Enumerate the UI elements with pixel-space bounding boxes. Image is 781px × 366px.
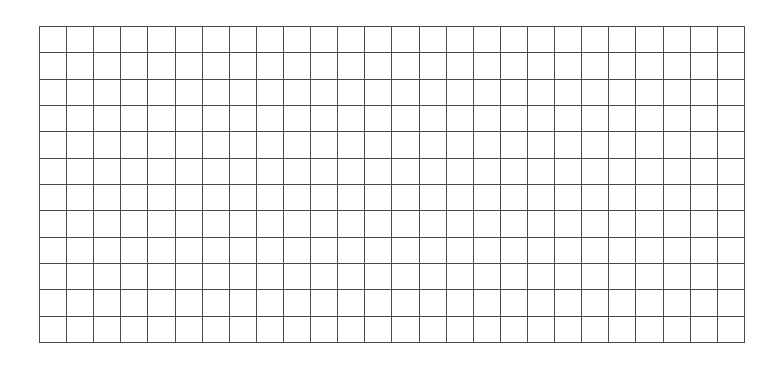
grid-row xyxy=(40,158,745,184)
grid-cell xyxy=(609,316,636,342)
grid-cell xyxy=(446,105,473,131)
grid-cell xyxy=(311,316,338,342)
grid-cell xyxy=(365,211,392,237)
grid-cell xyxy=(392,263,419,289)
grid-cell xyxy=(446,27,473,53)
grid-cell xyxy=(717,211,744,237)
grid-cell xyxy=(500,316,527,342)
grid-cell xyxy=(175,79,202,105)
grid-cell xyxy=(717,132,744,158)
grid-cell xyxy=(148,158,175,184)
grid-cell xyxy=(283,263,310,289)
grid-cell xyxy=(555,158,582,184)
empty-grid xyxy=(39,26,745,343)
grid-cell xyxy=(148,237,175,263)
grid-cell xyxy=(256,290,283,316)
grid-cell xyxy=(690,27,717,53)
grid-cell xyxy=(663,27,690,53)
grid-cell xyxy=(67,237,94,263)
grid-cell xyxy=(311,290,338,316)
grid-cell xyxy=(527,184,554,210)
grid-cell xyxy=(717,290,744,316)
grid-cell xyxy=(283,132,310,158)
grid-cell xyxy=(40,53,67,79)
grid-cell xyxy=(392,290,419,316)
grid-cell xyxy=(419,132,446,158)
grid-cell xyxy=(500,290,527,316)
grid-cell xyxy=(256,263,283,289)
grid-cell xyxy=(256,105,283,131)
grid-cell xyxy=(473,211,500,237)
grid-cell xyxy=(311,211,338,237)
grid-cell xyxy=(256,53,283,79)
grid-cell xyxy=(582,53,609,79)
grid-cell xyxy=(609,237,636,263)
grid-cell xyxy=(283,27,310,53)
grid-cell xyxy=(202,53,229,79)
grid-cell xyxy=(717,105,744,131)
grid-cell xyxy=(175,316,202,342)
grid-cell xyxy=(555,132,582,158)
grid-cell xyxy=(527,290,554,316)
grid-cell xyxy=(338,27,365,53)
grid-cell xyxy=(636,53,663,79)
grid-cell xyxy=(67,79,94,105)
grid-cell xyxy=(609,27,636,53)
grid-cell xyxy=(500,132,527,158)
grid-cell xyxy=(67,27,94,53)
grid-cell xyxy=(419,316,446,342)
grid-cell xyxy=(555,105,582,131)
grid-row xyxy=(40,290,745,316)
grid-cell xyxy=(555,290,582,316)
grid-cell xyxy=(636,211,663,237)
grid-cell xyxy=(473,105,500,131)
grid-cell xyxy=(419,105,446,131)
grid-cell xyxy=(690,158,717,184)
grid-cell xyxy=(40,105,67,131)
grid-cell xyxy=(121,316,148,342)
grid-cell xyxy=(555,53,582,79)
grid-cell xyxy=(121,132,148,158)
grid-cell xyxy=(555,27,582,53)
grid-cell xyxy=(121,53,148,79)
grid-cell xyxy=(365,184,392,210)
grid-cell xyxy=(717,184,744,210)
grid-cell xyxy=(94,132,121,158)
grid-cell xyxy=(473,132,500,158)
grid-cell xyxy=(690,53,717,79)
grid-cell xyxy=(121,79,148,105)
grid-cell xyxy=(636,79,663,105)
grid-cell xyxy=(663,158,690,184)
grid-cell xyxy=(690,290,717,316)
grid-row xyxy=(40,237,745,263)
grid-cell xyxy=(283,79,310,105)
grid-cell xyxy=(446,79,473,105)
grid-cell xyxy=(636,158,663,184)
grid-cell xyxy=(311,27,338,53)
grid-cell xyxy=(283,316,310,342)
grid-cell xyxy=(148,184,175,210)
grid-cell xyxy=(392,53,419,79)
grid-cell xyxy=(175,53,202,79)
grid-cell xyxy=(229,263,256,289)
grid-cell xyxy=(202,27,229,53)
grid-cell xyxy=(555,184,582,210)
grid-cell xyxy=(67,132,94,158)
grid-cell xyxy=(446,158,473,184)
grid-row xyxy=(40,79,745,105)
grid-cell xyxy=(311,237,338,263)
grid-cell xyxy=(256,316,283,342)
grid-cell xyxy=(527,105,554,131)
grid-row xyxy=(40,263,745,289)
grid-cell xyxy=(365,79,392,105)
grid-cell xyxy=(419,27,446,53)
grid-cell xyxy=(202,237,229,263)
grid-cell xyxy=(94,53,121,79)
grid-cell xyxy=(256,79,283,105)
grid-cell xyxy=(40,184,67,210)
grid-cell xyxy=(663,263,690,289)
grid-cell xyxy=(500,237,527,263)
grid-cell xyxy=(582,79,609,105)
grid-cell xyxy=(202,105,229,131)
grid-cell xyxy=(67,158,94,184)
